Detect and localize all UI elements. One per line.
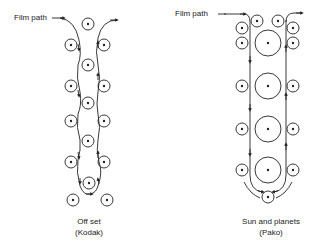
kodak-type: Off set bbox=[44, 216, 134, 227]
kodak-maker: (Kodak) bbox=[44, 227, 134, 238]
roller-axle bbox=[277, 20, 279, 22]
film-transport-diagram bbox=[0, 0, 313, 251]
roller-axle bbox=[70, 161, 72, 163]
roller-axle bbox=[103, 120, 105, 122]
roller-axle bbox=[256, 20, 258, 22]
kodak-rollers bbox=[65, 18, 113, 206]
roller-axle bbox=[267, 169, 269, 171]
roller-axle bbox=[292, 85, 294, 87]
pako-maker: (Pako) bbox=[226, 227, 313, 238]
roller-axle bbox=[70, 85, 72, 87]
roller-axle bbox=[267, 128, 269, 130]
roller-axle bbox=[70, 44, 72, 46]
roller-axle bbox=[88, 182, 90, 184]
roller-axle bbox=[241, 169, 243, 171]
roller-axle bbox=[87, 140, 89, 142]
roller-axle bbox=[106, 199, 108, 201]
roller-axle bbox=[103, 161, 105, 163]
roller-axle bbox=[267, 196, 269, 198]
kodak-caption: Off set (Kodak) bbox=[44, 216, 134, 238]
roller-axle bbox=[267, 85, 269, 87]
roller-axle bbox=[72, 199, 74, 201]
roller-axle bbox=[70, 120, 72, 122]
pako-caption: Sun and planets (Pako) bbox=[226, 216, 313, 238]
roller-axle bbox=[241, 85, 243, 87]
roller-axle bbox=[241, 27, 243, 29]
pako-film-path-label: Film path bbox=[175, 9, 208, 18]
roller-axle bbox=[292, 169, 294, 171]
roller-axle bbox=[292, 27, 294, 29]
roller-axle bbox=[292, 128, 294, 130]
roller-axle bbox=[267, 42, 269, 44]
roller-axle bbox=[87, 102, 89, 104]
roller-axle bbox=[241, 128, 243, 130]
roller-axle bbox=[292, 42, 294, 44]
roller-axle bbox=[241, 42, 243, 44]
kodak-film-path-label: Film path bbox=[14, 13, 47, 22]
roller-axle bbox=[103, 44, 105, 46]
pako-type: Sun and planets bbox=[226, 216, 313, 227]
pako-rollers bbox=[236, 15, 299, 203]
roller-axle bbox=[87, 64, 89, 66]
roller-axle bbox=[87, 23, 89, 25]
roller-axle bbox=[103, 85, 105, 87]
